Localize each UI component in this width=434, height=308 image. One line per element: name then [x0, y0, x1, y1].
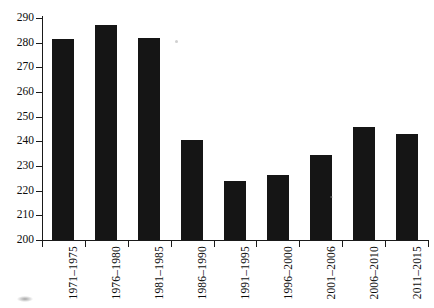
bar	[181, 140, 203, 240]
x-axis-category-label: 1986–1990	[197, 246, 208, 300]
x-axis-tick	[299, 241, 300, 247]
scan-artifact-smudge	[17, 296, 33, 302]
bar-chart: 200210220230240250260270280290 1971–1975…	[0, 0, 434, 308]
x-axis-tick	[85, 241, 86, 247]
x-axis-tick	[214, 241, 215, 247]
x-axis-tick	[385, 241, 386, 247]
x-axis-tick	[256, 241, 257, 247]
bar	[138, 38, 160, 240]
x-axis-tick	[128, 241, 129, 247]
x-axis-tick	[342, 241, 343, 247]
x-axis-category-label: 2011–2015	[412, 246, 423, 299]
x-axis-category-label: 1991–1995	[240, 246, 251, 300]
x-axis-category-label: 2001–2006	[326, 246, 337, 300]
x-axis-category-label: 1981–1985	[154, 246, 165, 300]
bar	[95, 25, 117, 240]
x-axis-tick	[42, 241, 43, 247]
bar	[52, 39, 74, 240]
bar	[353, 127, 375, 240]
bar	[310, 155, 332, 240]
x-axis-category-label: 2006–2010	[369, 246, 380, 300]
scan-artifact-speck	[175, 40, 178, 43]
x-axis-category-label: 1976–1980	[111, 246, 122, 300]
scan-artifact-speck	[330, 196, 333, 198]
bar	[224, 181, 246, 240]
bar	[396, 134, 418, 240]
bar	[267, 175, 289, 240]
bars-layer	[0, 0, 434, 241]
x-axis-category-label: 1996–2000	[283, 246, 294, 300]
x-axis-tick	[428, 241, 429, 247]
x-axis-category-label: 1971–1975	[68, 246, 79, 300]
x-axis-tick	[171, 241, 172, 247]
